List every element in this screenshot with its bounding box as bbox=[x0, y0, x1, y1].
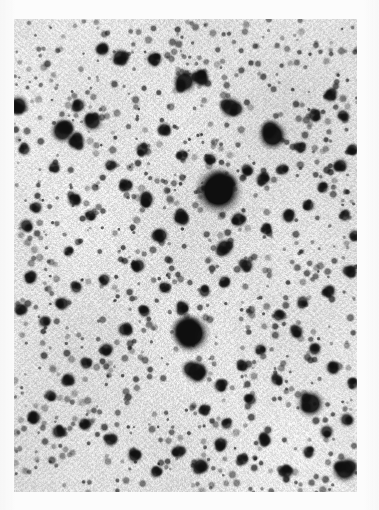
astronomical-plate-image bbox=[14, 19, 357, 492]
star-field-canvas bbox=[14, 19, 357, 492]
figure-page bbox=[0, 0, 379, 510]
